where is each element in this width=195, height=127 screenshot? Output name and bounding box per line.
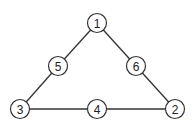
- node-1: 1: [88, 14, 107, 33]
- node-5: 5: [49, 57, 68, 76]
- node-label: 4: [94, 103, 101, 117]
- node-6: 6: [127, 57, 146, 76]
- node-3: 3: [11, 100, 30, 119]
- node-2: 2: [166, 100, 185, 119]
- node-label: 1: [94, 17, 101, 31]
- node-4: 4: [88, 100, 107, 119]
- node-label: 6: [133, 60, 140, 74]
- node-label: 5: [55, 60, 62, 74]
- nodes: 156342: [11, 14, 185, 119]
- triangle-graph-diagram: 156342: [0, 0, 195, 127]
- node-label: 2: [172, 103, 179, 117]
- edges: [20, 23, 175, 109]
- node-label: 3: [17, 103, 24, 117]
